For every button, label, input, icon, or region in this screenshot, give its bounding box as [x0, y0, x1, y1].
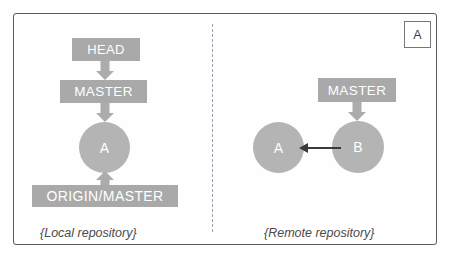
figure-label-badge: A	[404, 21, 431, 48]
head-pointer-label: HEAD	[87, 42, 125, 57]
remote-repository-caption-text: {Remote repository}	[264, 226, 374, 240]
local-master-branch-label: MASTER	[74, 84, 133, 99]
head-to-master-arrow-icon	[94, 61, 116, 80]
remote-master-branch-label: MASTER	[328, 83, 387, 98]
remote-commit-node-a: A	[253, 122, 304, 173]
local-commit-node-a-label: A	[100, 140, 109, 156]
local-repository-caption-text: {Local repository}	[40, 226, 137, 240]
remote-repository-caption: {Remote repository}	[264, 226, 374, 240]
panel-divider-dashed	[212, 24, 213, 232]
origin-master-tracking-box: ORIGIN/MASTER	[32, 185, 178, 207]
remote-commit-node-b-label: B	[353, 139, 362, 155]
local-commit-node-a: A	[79, 122, 130, 173]
local-repository-caption: {Local repository}	[40, 226, 137, 240]
remote-master-to-commit-arrow-icon	[346, 102, 368, 121]
local-master-branch-box: MASTER	[60, 80, 147, 103]
commit-b-to-a-parent-arrow-icon	[299, 142, 341, 153]
git-branch-diagram: HEAD MASTER A ORIGIN/MASTER {Local repos…	[0, 0, 451, 269]
head-pointer-box: HEAD	[72, 38, 140, 61]
remote-commit-node-a-label: A	[274, 140, 283, 156]
master-to-commit-arrow-icon	[94, 103, 116, 122]
figure-label-badge-text: A	[413, 28, 421, 42]
remote-master-branch-box: MASTER	[318, 78, 396, 102]
origin-master-tracking-label: ORIGIN/MASTER	[46, 188, 163, 204]
